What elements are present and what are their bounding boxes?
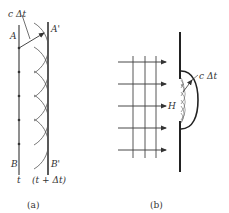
plane-wavefronts	[133, 56, 156, 158]
label-b-prime: B'	[50, 159, 60, 169]
label-h: H	[167, 101, 176, 111]
label-a-prime: A'	[50, 24, 60, 34]
label-t: t	[17, 175, 21, 185]
incident-rays	[118, 62, 166, 150]
diagram-b: H c Δt (b)	[118, 32, 217, 210]
aperture-wavelets	[181, 78, 185, 123]
caption-a: (a)	[27, 200, 39, 210]
radius-arrow	[19, 33, 44, 48]
huygens-diagram: c Δt A A' B B' t (t + Δt) (a)	[0, 0, 229, 213]
label-c-delta-t-b: c Δt	[199, 71, 217, 81]
label-c-delta-t-a: c Δt	[8, 9, 26, 19]
caption-b: (b)	[150, 200, 163, 210]
wavelets	[34, 23, 48, 169]
label-t-plus-delta-t: (t + Δt)	[32, 175, 67, 185]
label-b: B	[10, 159, 18, 169]
diagram-a: c Δt A A' B B' t (t + Δt) (a)	[8, 9, 67, 210]
diffracted-wavefront	[181, 71, 198, 129]
label-a: A	[9, 31, 17, 41]
radius-arrow-b	[183, 80, 192, 92]
